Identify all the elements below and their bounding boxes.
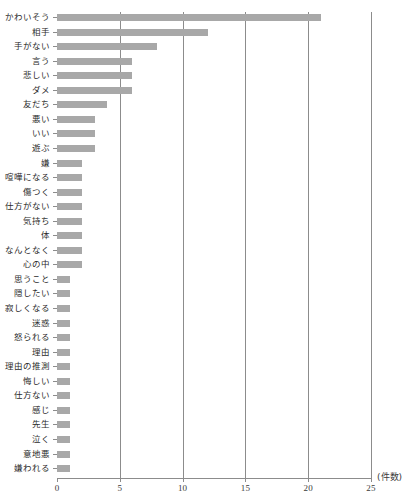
bar xyxy=(57,29,208,36)
category-label: 仕方がない xyxy=(0,202,50,211)
x-tick-mark xyxy=(120,478,121,482)
x-tick-mark xyxy=(183,478,184,482)
category-tick xyxy=(53,46,57,47)
bar xyxy=(57,130,95,137)
bar xyxy=(57,232,82,239)
category-tick xyxy=(53,32,57,33)
category-tick xyxy=(53,352,57,353)
category-tick xyxy=(53,337,57,338)
bar xyxy=(57,305,70,312)
bar xyxy=(57,72,132,79)
x-tick-label: 0 xyxy=(44,483,70,493)
bar xyxy=(57,116,95,123)
category-label: 寂しくなる xyxy=(0,304,50,313)
category-tick xyxy=(53,279,57,280)
bar xyxy=(57,43,157,50)
bar xyxy=(57,247,82,254)
x-tick-label: 15 xyxy=(232,483,258,493)
category-label: 意地悪 xyxy=(0,450,50,459)
bar-chart: かわいそう相手手がない言う悲しいダメ友だち悪いいい遊ぶ嫌喧嘩になる傷つく仕方がな… xyxy=(0,0,420,501)
bar xyxy=(57,451,70,458)
category-label: 隠したい xyxy=(0,289,50,298)
category-label: 相手 xyxy=(0,28,50,37)
plot-area xyxy=(57,12,371,478)
category-label: 仕方ない xyxy=(0,391,50,400)
bar xyxy=(57,101,107,108)
category-label: 遊ぶ xyxy=(0,144,50,153)
gridline xyxy=(308,12,309,478)
bar xyxy=(57,290,70,297)
category-tick xyxy=(53,235,57,236)
x-tick-mark xyxy=(308,478,309,482)
category-label: 悲しい xyxy=(0,71,50,80)
bar xyxy=(57,145,95,152)
bar xyxy=(57,58,132,65)
category-label: いい xyxy=(0,129,50,138)
x-tick-label: 10 xyxy=(170,483,196,493)
category-tick xyxy=(53,439,57,440)
category-tick xyxy=(53,395,57,396)
category-label: 先生 xyxy=(0,420,50,429)
bar xyxy=(57,436,70,443)
category-tick xyxy=(53,323,57,324)
bar xyxy=(57,421,70,428)
category-tick xyxy=(53,104,57,105)
category-tick xyxy=(53,17,57,18)
category-tick xyxy=(53,61,57,62)
category-tick xyxy=(53,192,57,193)
bar xyxy=(57,392,70,399)
gridline xyxy=(183,12,184,478)
category-label: 友だち xyxy=(0,100,50,109)
bar xyxy=(57,174,82,181)
category-label: 理由の推測 xyxy=(0,362,50,371)
category-label: 心の中 xyxy=(0,260,50,269)
gridline xyxy=(120,12,121,478)
x-axis-line xyxy=(57,478,371,479)
category-tick xyxy=(53,366,57,367)
category-tick xyxy=(53,381,57,382)
category-label: 手がない xyxy=(0,42,50,51)
bar xyxy=(57,320,70,327)
bar xyxy=(57,334,70,341)
category-tick xyxy=(53,264,57,265)
category-tick xyxy=(53,221,57,222)
bar xyxy=(57,349,70,356)
category-tick xyxy=(53,454,57,455)
category-tick xyxy=(53,133,57,134)
category-label: 気持ち xyxy=(0,217,50,226)
category-tick xyxy=(53,119,57,120)
category-tick xyxy=(53,424,57,425)
x-tick-label: 25 xyxy=(358,483,384,493)
category-label: 感じ xyxy=(0,406,50,415)
category-label: 迷惑 xyxy=(0,319,50,328)
category-label: 体 xyxy=(0,231,50,240)
bar xyxy=(57,261,82,268)
bar xyxy=(57,189,82,196)
x-tick-label: 5 xyxy=(107,483,133,493)
x-tick-mark xyxy=(371,478,372,482)
bar xyxy=(57,87,132,94)
category-tick xyxy=(53,163,57,164)
gridline xyxy=(245,12,246,478)
x-tick-mark xyxy=(57,478,58,482)
category-label: 嫌 xyxy=(0,159,50,168)
x-tick-label: 20 xyxy=(295,483,321,493)
category-label: かわいそう xyxy=(0,13,50,22)
bar xyxy=(57,203,82,210)
category-label: 怒られる xyxy=(0,333,50,342)
category-label: 悔しい xyxy=(0,377,50,386)
x-axis-unit-label: (件数) xyxy=(377,470,402,483)
category-label: 言う xyxy=(0,57,50,66)
category-tick xyxy=(53,293,57,294)
bar xyxy=(57,465,70,472)
category-label: 傷つく xyxy=(0,188,50,197)
bar xyxy=(57,363,70,370)
category-label: なんとなく xyxy=(0,246,50,255)
category-label: 悪い xyxy=(0,115,50,124)
category-tick xyxy=(53,148,57,149)
category-tick xyxy=(53,410,57,411)
category-label: 泣く xyxy=(0,435,50,444)
category-tick xyxy=(53,308,57,309)
bar xyxy=(57,407,70,414)
category-label: 喧嘩になる xyxy=(0,173,50,182)
